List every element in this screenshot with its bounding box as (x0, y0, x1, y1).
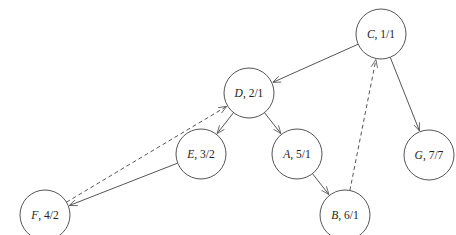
graph-diagram: C, 1/1D, 2/1G, 7/7E, 3/2A, 5/1F, 4/2B, 6… (0, 0, 456, 235)
node-label: C, 1/1 (367, 28, 395, 41)
node-label: E, 3/2 (186, 148, 215, 161)
node-d: D, 2/1 (224, 68, 274, 118)
edge-c-to-g (390, 57, 419, 131)
node-label: D, 2/1 (234, 87, 264, 100)
node-g: G, 7/7 (404, 130, 454, 180)
node-a: A, 5/1 (272, 129, 322, 179)
edge-d-to-e (217, 113, 233, 134)
node-label: B, 6/1 (331, 209, 359, 222)
nodes-layer: C, 1/1D, 2/1G, 7/7E, 3/2A, 5/1F, 4/2B, 6… (20, 9, 454, 235)
node-label: A, 5/1 (282, 148, 311, 161)
node-label: G, 7/7 (415, 149, 444, 162)
node-e: E, 3/2 (176, 129, 226, 179)
node-f: F, 4/2 (20, 190, 70, 235)
edge-a-to-b (312, 174, 328, 195)
edge-e-to-f (69, 163, 178, 205)
node-c: C, 1/1 (356, 9, 406, 59)
node-b: B, 6/1 (320, 190, 370, 235)
edge-d-to-a (264, 113, 280, 134)
edge-b-to-c (350, 60, 376, 191)
edge-c-to-d (273, 44, 358, 82)
node-label: F, 4/2 (30, 209, 59, 222)
